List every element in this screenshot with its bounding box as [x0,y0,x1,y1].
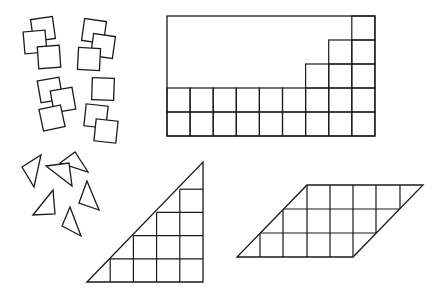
unit-square [39,105,65,131]
grid-cell [306,64,329,88]
grid-cell [352,16,375,40]
figure [0,0,443,297]
unit-square [92,78,115,101]
grid-cell [190,88,213,112]
grid-cell [259,112,282,136]
grid-cell [306,88,329,112]
grid-cell [306,112,329,136]
triangle-outline [87,162,203,282]
grid-cell [352,88,375,112]
grid-cell [283,88,306,112]
grid-cell [352,112,375,136]
tiled-right-triangle [87,162,203,282]
grid-cell [213,112,236,136]
grid-cell [167,88,190,112]
grid-cell [236,112,259,136]
grid-cell [190,112,213,136]
unit-triangle [46,163,72,186]
unit-square [94,119,118,143]
grid-cell [329,88,352,112]
rectangle-outline [167,16,375,136]
tiled-parallelogram [237,185,423,257]
tiled-rectangle [167,16,375,136]
grid-cell [236,88,259,112]
grid-cell [283,112,306,136]
grid-cell [259,88,282,112]
grid-cell [352,40,375,64]
grid-cell [213,88,236,112]
loose-unit-triangles [22,152,99,236]
grid-cell [352,64,375,88]
unit-triangle [22,155,41,187]
unit-triangle [79,181,99,210]
unit-triangle [33,190,55,215]
grid-cell [167,112,190,136]
unit-square [37,45,60,68]
unit-triangle [62,207,81,236]
grid-cell [329,64,352,88]
grid-cell [329,40,352,64]
unit-square [77,47,100,70]
loose-unit-squares [23,17,118,144]
grid-cell [329,112,352,136]
